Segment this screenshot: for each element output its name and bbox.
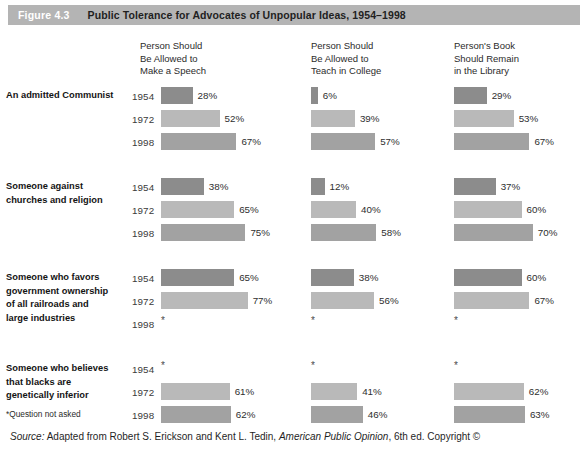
bar-row-year: 1954: [132, 364, 154, 375]
bar-row: 195438%12%37%: [0, 177, 588, 200]
bar-row: 195428%6%29%: [0, 86, 588, 109]
column-header-library: Person's BookShould Remainin the Library: [454, 40, 519, 78]
bar-group: Someone againstchurches and religion1954…: [0, 177, 588, 268]
bar: [311, 383, 357, 400]
column-header-speech-line3: Make a Speech: [140, 65, 206, 76]
bar: [311, 406, 363, 423]
bar: [161, 133, 236, 150]
bar-value-label: 52%: [225, 113, 245, 124]
no-data-asterisk: *: [311, 316, 315, 326]
bar: [161, 383, 230, 400]
bar-row: 1954***: [0, 359, 588, 382]
figure-header-band: Figure 4.3 Public Tolerance for Advocate…: [8, 5, 580, 25]
figure-title: Public Tolerance for Advocates of Unpopu…: [88, 9, 406, 21]
bar: [311, 110, 355, 127]
bar-value-label: 60%: [527, 204, 547, 215]
bar-row: 1998***: [0, 314, 588, 337]
bar-row-year: 1972: [132, 114, 154, 125]
source-text-after: , 6th ed. Copyright ©: [388, 431, 480, 442]
bar: [311, 87, 318, 104]
bar: [454, 110, 514, 127]
bar-row-year: 1972: [132, 205, 154, 216]
bar-row-year: 1954: [132, 273, 154, 284]
bar: [311, 201, 356, 218]
bar-value-label: 67%: [534, 136, 554, 147]
column-header-speech-line1: Person Should: [140, 40, 202, 51]
bar-group: Someone who favorsgovernment ownershipof…: [0, 268, 588, 359]
bar-row: 197277%56%67%: [0, 291, 588, 314]
bar-value-label: 38%: [209, 181, 229, 192]
bar-row-year: 1972: [132, 387, 154, 398]
bar-row-year: 1972: [132, 296, 154, 307]
column-header-library-line3: in the Library: [454, 65, 509, 76]
bar: [161, 406, 231, 423]
column-header-teach: Person ShouldBe Allowed toTeach in Colle…: [311, 40, 381, 78]
bar: [161, 269, 234, 286]
bar-value-label: 63%: [530, 409, 550, 420]
bar-row-year: 1998: [132, 410, 154, 421]
bar-value-label: 60%: [527, 272, 547, 283]
bar-value-label: 6%: [323, 90, 337, 101]
bar-row-year: 1998: [132, 137, 154, 148]
column-header-teach-line3: Teach in College: [311, 65, 381, 76]
bar-value-label: 58%: [381, 227, 401, 238]
column-header-teach-line1: Person Should: [311, 40, 373, 51]
bar-value-label: 40%: [361, 204, 381, 215]
bar-row-year: 1998: [132, 319, 154, 330]
bar: [311, 178, 325, 195]
source-text-before: Adapted from Robert S. Erickson and Kent…: [44, 431, 278, 442]
figure-number: Figure 4.3: [18, 9, 70, 21]
no-data-asterisk: *: [311, 361, 315, 371]
bar: [311, 269, 354, 286]
bar: [454, 269, 522, 286]
bar-value-label: 65%: [239, 272, 259, 283]
bar-value-label: 41%: [362, 386, 382, 397]
no-data-asterisk: *: [161, 361, 165, 371]
bar: [454, 224, 533, 241]
column-header-library-line2: Should Remain: [454, 53, 519, 64]
bar: [311, 133, 375, 150]
bar: [454, 178, 496, 195]
bar-row: 197265%40%60%: [0, 200, 588, 223]
bar-value-label: 70%: [538, 227, 558, 238]
no-data-asterisk: *: [454, 361, 458, 371]
bar: [161, 87, 193, 104]
bar: [454, 292, 529, 309]
bar-value-label: 75%: [250, 227, 270, 238]
bar: [454, 201, 522, 218]
bar-value-label: 38%: [359, 272, 379, 283]
bar-value-label: 61%: [235, 386, 255, 397]
source-line: Source: Adapted from Robert S. Erickson …: [10, 431, 480, 442]
bar-row: 199862%46%63%: [0, 405, 588, 428]
bar-value-label: 62%: [529, 386, 549, 397]
bar: [161, 201, 234, 218]
bar-value-label: 39%: [360, 113, 380, 124]
bar-row-year: 1954: [132, 182, 154, 193]
bar-value-label: 53%: [519, 113, 539, 124]
bar-value-label: 29%: [492, 90, 512, 101]
chart-body: An admitted Communist195428%6%29%197252%…: [0, 86, 588, 428]
bar-value-label: 12%: [330, 181, 350, 192]
bar-value-label: 37%: [501, 181, 521, 192]
bar: [454, 383, 524, 400]
bar: [454, 133, 529, 150]
bar-row-year: 1998: [132, 228, 154, 239]
bar-row-year: 1954: [132, 91, 154, 102]
no-data-asterisk: *: [161, 316, 165, 326]
bar: [311, 292, 374, 309]
bar: [161, 178, 204, 195]
source-book-title: American Public Opinion: [279, 431, 389, 442]
footnote-question-not-asked: *Question not asked: [6, 409, 81, 419]
bar-row: 199875%58%70%: [0, 223, 588, 246]
bar-row: 195465%38%60%: [0, 268, 588, 291]
bar-value-label: 77%: [253, 295, 273, 306]
column-header-speech-line2: Be Allowed to: [140, 53, 198, 64]
bar: [161, 224, 245, 241]
column-header-teach-line2: Be Allowed to: [311, 53, 369, 64]
no-data-asterisk: *: [454, 316, 458, 326]
bar: [161, 292, 248, 309]
bar-value-label: 67%: [534, 295, 554, 306]
bar-value-label: 65%: [239, 204, 259, 215]
bar-group: Someone who believesthat blacks aregenet…: [0, 359, 588, 428]
column-headers: Person ShouldBe Allowed toMake a Speech …: [0, 40, 588, 82]
